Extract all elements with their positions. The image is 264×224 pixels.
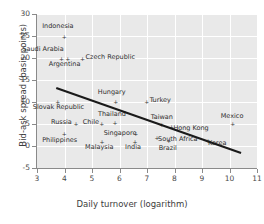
- x-axis-title: Daily turnover (logarithm): [0, 200, 264, 209]
- trend-line: [0, 0, 264, 224]
- chart-figure: -505101520253034567891011 IndonesiaSaudi…: [0, 0, 264, 224]
- y-axis-title: Bid-ask spread (basis points): [19, 5, 28, 165]
